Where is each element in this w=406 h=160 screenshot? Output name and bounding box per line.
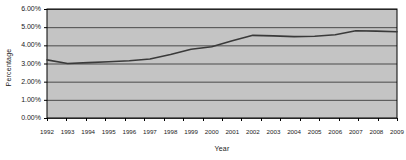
line-chart: Percentage Year 6.00%5.00%4.00%3.00%2.00…	[0, 0, 406, 160]
plot-area	[0, 0, 406, 160]
